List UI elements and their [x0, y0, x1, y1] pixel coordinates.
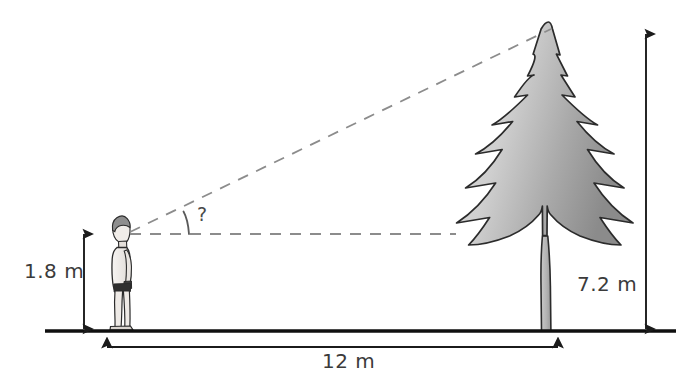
angle-arc — [184, 212, 190, 235]
label-horizontal-distance: 12 m — [322, 351, 375, 371]
person-figure — [110, 216, 133, 330]
person-legs — [115, 291, 131, 329]
tree-foliage — [457, 22, 633, 245]
label-tree-height: 7.2 m — [577, 274, 637, 294]
diagram-canvas — [0, 0, 686, 382]
label-unknown-angle: ? — [197, 205, 208, 224]
trigonometry-diagram: 1.8 m 7.2 m 12 m ? — [0, 0, 686, 382]
tree-trunk — [541, 236, 551, 331]
label-person-height: 1.8 m — [24, 261, 84, 281]
